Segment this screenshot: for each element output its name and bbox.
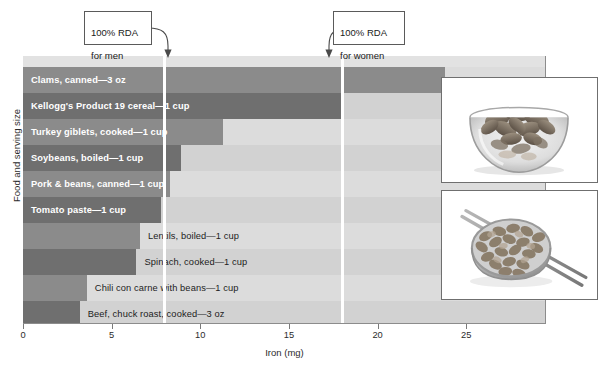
rda-women-callout-line1: 100% RDA — [340, 27, 399, 39]
bar-label: Beef, chuck roast, cooked—3 oz — [88, 309, 225, 319]
x-tick — [378, 324, 379, 329]
x-tick-label: 25 — [461, 330, 471, 340]
x-tick — [200, 324, 201, 329]
bar[interactable] — [23, 275, 87, 301]
rda-men-callout: 100% RDA for men — [84, 11, 152, 45]
bar-label: Spinach, cooked—1 cup — [144, 257, 247, 267]
reference-line-rda-men — [163, 56, 166, 324]
rda-women-callout-line2: for women — [340, 50, 399, 62]
x-tick — [289, 324, 290, 329]
reference-line-rda-women — [341, 56, 344, 324]
bar-label: Lentils, boiled—1 cup — [148, 231, 239, 241]
x-axis-title: Iron (mg) — [23, 347, 546, 358]
y-axis-title: Food and serving size — [11, 56, 22, 256]
rda-men-callout-line1: 100% RDA — [91, 27, 146, 39]
x-tick — [466, 324, 467, 329]
bar-label: Turkey giblets, cooked—1 cup — [31, 127, 167, 137]
bar[interactable] — [23, 249, 136, 275]
bar-label: Pork & beans, canned—1 cup — [31, 179, 164, 189]
x-tick-label: 5 — [109, 330, 114, 340]
bar-label: Soybeans, boiled—1 cup — [31, 153, 143, 163]
bar[interactable] — [23, 223, 140, 249]
bar[interactable] — [23, 301, 80, 324]
x-tick-label: 15 — [284, 330, 294, 340]
beans-measuring-cup-photo — [441, 190, 598, 300]
rda-men-callout-line2: for men — [91, 50, 146, 62]
x-tick-label: 0 — [20, 330, 25, 340]
bar-label: Chili con carne with beans—1 cup — [95, 283, 239, 293]
x-tick-label: 10 — [195, 330, 205, 340]
bar-row: Beef, chuck roast, cooked—3 oz — [23, 301, 546, 324]
rda-women-callout: 100% RDA for women — [333, 11, 405, 45]
iron-content-bar-chart: 100% RDA for men 100% RDA for women Clam… — [0, 0, 606, 372]
x-tick-label: 20 — [372, 330, 382, 340]
x-tick — [23, 324, 24, 329]
bar-label: Tomato paste—1 cup — [31, 205, 126, 215]
x-tick — [112, 324, 113, 329]
cereal-bowl-photo — [441, 77, 598, 183]
bar-label: Clams, canned—3 oz — [31, 75, 126, 85]
